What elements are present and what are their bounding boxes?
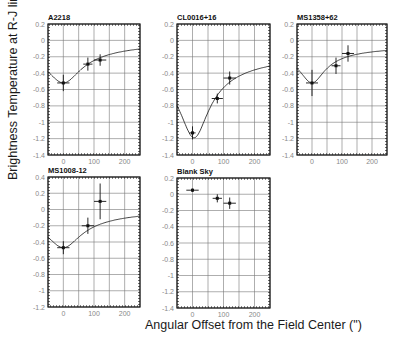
panel-ms1008-12: MS1008-120.40.20-0.2-0.4-0.6-0.8-1-1.201… <box>33 166 140 317</box>
panel-title: MS1008-12 <box>48 166 87 175</box>
x-tick-label: 0 <box>61 310 65 317</box>
data-point <box>82 218 94 234</box>
panel-title: CL0016+16 <box>177 13 216 22</box>
y-tick-label: -0.8 <box>33 102 45 109</box>
y-tick-label: -1.2 <box>33 135 45 142</box>
y-tick-label: -1.2 <box>33 304 45 311</box>
data-point <box>224 71 236 84</box>
panel-ms1358-62: MS1358+620.20-0.2-0.4-0.6-0.8-1-1.2-1.40… <box>282 13 387 165</box>
y-tick-label: -0.4 <box>162 223 174 230</box>
data-point <box>94 184 106 220</box>
x-axis-label: Angular Offset from the Field Center (") <box>145 318 362 332</box>
y-tick-label: -0.2 <box>282 53 294 60</box>
y-tick-label: -1.4 <box>282 152 294 159</box>
data-point <box>83 58 92 71</box>
y-tick-label: -0.8 <box>33 271 45 278</box>
y-tick-label: -1.4 <box>33 152 45 159</box>
x-tick-label: 0 <box>191 311 195 318</box>
x-tick-label: 200 <box>249 158 261 165</box>
panel-title: A2218 <box>48 13 70 22</box>
y-tick-label: -0.6 <box>162 86 174 93</box>
x-tick-label: 0 <box>191 158 195 165</box>
x-tick-label: 100 <box>336 158 348 165</box>
panel-title: Blank Sky <box>177 167 214 176</box>
y-tick-label: 0.2 <box>284 21 294 28</box>
y-tick-label: -1 <box>168 119 174 126</box>
y-tick-label: 0.4 <box>35 174 45 181</box>
y-tick-label: -1 <box>288 119 294 126</box>
y-tick-label: -1.4 <box>162 152 174 159</box>
data-point <box>213 194 222 202</box>
y-tick-label: 0.2 <box>35 190 45 197</box>
y-tick-label: -1 <box>39 119 45 126</box>
x-tick-label: 100 <box>88 158 100 165</box>
panel-a2218: A22180.20-0.2-0.4-0.6-0.8-1-1.2-1.401002… <box>33 13 140 165</box>
y-tick-label: 0.2 <box>35 21 45 28</box>
x-tick-label: 200 <box>366 158 378 165</box>
y-tick-label: -0.6 <box>33 86 45 93</box>
y-tick-label: 0 <box>290 37 294 44</box>
y-tick-label: -0.2 <box>33 53 45 60</box>
x-tick-label: 0 <box>310 158 314 165</box>
y-tick-label: 0 <box>41 206 45 213</box>
y-tick-label: -0.8 <box>282 102 294 109</box>
y-tick-label: 0.2 <box>164 175 174 182</box>
y-tick-label: -0.2 <box>162 207 174 214</box>
y-tick-label: -0.4 <box>33 239 45 246</box>
data-point <box>57 75 69 91</box>
panel-cl0016-16: CL0016+160.20-0.2-0.4-0.6-0.8-1-1.2-1.40… <box>162 13 270 165</box>
x-tick-label: 200 <box>249 311 261 318</box>
y-tick-label: -1 <box>39 287 45 294</box>
data-point <box>306 70 318 96</box>
y-tick-label: -1.4 <box>162 305 174 312</box>
y-tick-label: -0.8 <box>162 102 174 109</box>
data-point <box>224 198 236 209</box>
data-point <box>186 189 198 192</box>
figure-canvas: A22180.20-0.2-0.4-0.6-0.8-1-1.2-1.401002… <box>0 0 399 346</box>
panel-title: MS1358+62 <box>297 13 338 22</box>
x-tick-label: 200 <box>119 158 131 165</box>
data-point <box>57 241 69 254</box>
y-tick-label: -0.6 <box>282 86 294 93</box>
y-tick-label: -1.2 <box>282 135 294 142</box>
y-tick-label: -0.4 <box>33 70 45 77</box>
y-tick-label: 0 <box>41 37 45 44</box>
y-tick-label: -0.2 <box>162 53 174 60</box>
y-tick-label: -0.8 <box>162 256 174 263</box>
y-tick-label: -0.6 <box>162 240 174 247</box>
x-tick-label: 200 <box>119 310 131 317</box>
y-tick-label: -1 <box>168 272 174 279</box>
data-point <box>342 45 354 61</box>
x-tick-label: 100 <box>88 310 100 317</box>
x-tick-label: 100 <box>218 311 230 318</box>
y-tick-label: -0.6 <box>33 255 45 262</box>
x-tick-label: 0 <box>61 158 65 165</box>
y-tick-label: -0.4 <box>162 70 174 77</box>
y-tick-label: -0.4 <box>282 70 294 77</box>
panel-blank-sky: Blank Sky0.20-0.2-0.4-0.6-0.8-1-1.2-1.40… <box>162 167 270 318</box>
y-tick-label: -1.2 <box>162 288 174 295</box>
y-tick-label: -0.2 <box>33 222 45 229</box>
y-tick-label: 0 <box>170 191 174 198</box>
y-tick-label: 0.2 <box>164 21 174 28</box>
y-tick-label: -1.2 <box>162 135 174 142</box>
y-axis-label: Brightness Temperature at R-J limit (mK) <box>6 0 20 180</box>
x-tick-label: 100 <box>218 158 230 165</box>
y-tick-label: 0 <box>170 37 174 44</box>
